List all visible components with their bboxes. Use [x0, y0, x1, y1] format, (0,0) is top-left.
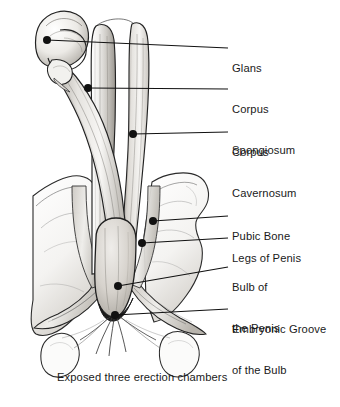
- label-glans-line-1: Glans: [232, 62, 262, 76]
- label-corpus-cavernosum-line-1: Corpus: [232, 146, 296, 160]
- label-bulb-of-the-penis-line-1: Bulb of: [232, 281, 280, 295]
- label-embryonic-groove-line-1: Embryonic Groove: [232, 323, 326, 337]
- label-embryonic-groove-of-the-bulb: Embryonic Groove of the Bulb: [232, 296, 326, 404]
- leader-dot-corpus-spongiosum: [84, 84, 92, 92]
- leader-dot-embryonic-groove-of-the-bulb: [111, 311, 119, 319]
- figure-caption: Exposed three erection chambers: [57, 371, 227, 385]
- label-corpus-spongiosum-line-1: Corpus: [232, 103, 295, 117]
- leader-line-corpus-cavernosum: [133, 132, 228, 134]
- label-embryonic-groove-line-2: of the Bulb: [232, 364, 326, 378]
- label-corpus-cavernosum-line-2: Cavernosum: [232, 187, 296, 201]
- leader-dot-corpus-cavernosum: [129, 130, 137, 138]
- anatomical-figure: Glans Corpus Spongiosum Corpus Cavernosu…: [0, 0, 340, 407]
- leader-dot-pubic-bone: [149, 217, 157, 225]
- glans-structure: [36, 11, 89, 92]
- leader-dot-legs-of-penis: [138, 239, 146, 247]
- leader-dot-glans: [43, 36, 51, 44]
- leader-dot-bulb-of-the-penis: [114, 282, 122, 290]
